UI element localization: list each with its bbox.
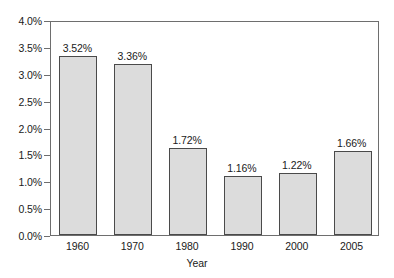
y-axis-tick-label: 0.0% [0,231,42,242]
y-axis-tick-label: 3.0% [0,70,42,81]
bar [59,56,97,235]
y-axis-tick-label: 2.5% [0,97,42,108]
bar-chart: 0.0%0.5%1.0%1.5%2.0%2.5%3.0%3.5%4.0% 3.5… [0,0,394,278]
x-axis-tick-label: 1990 [212,241,272,252]
bar-value-label: 1.16% [211,163,273,174]
x-axis-title: Year [0,258,394,269]
bar-value-label: 1.22% [266,160,328,171]
y-axis-tick-label: 3.5% [0,43,42,54]
x-axis-tick-label: 2000 [267,241,327,252]
bar [114,64,152,235]
bar-value-label: 3.52% [46,43,108,54]
bar-value-label: 1.72% [156,135,218,146]
x-axis-tick-label: 1980 [157,241,217,252]
y-axis-tick-mark [44,236,50,237]
bar-value-label: 1.66% [321,138,383,149]
y-axis-tick-label: 1.0% [0,177,42,188]
bar [224,176,262,235]
bar [334,151,372,235]
x-axis-tick-label: 1960 [47,241,107,252]
y-axis-tick-label: 4.0% [0,16,42,27]
bar [169,148,207,235]
bar-value-label: 3.36% [101,51,163,62]
x-axis-tick-label: 2005 [322,241,382,252]
x-axis-tick-label: 1970 [102,241,162,252]
y-axis-tick-label: 2.0% [0,124,42,135]
bar [279,173,317,235]
y-axis-tick-label: 0.5% [0,204,42,215]
y-axis-tick-label: 1.5% [0,150,42,161]
